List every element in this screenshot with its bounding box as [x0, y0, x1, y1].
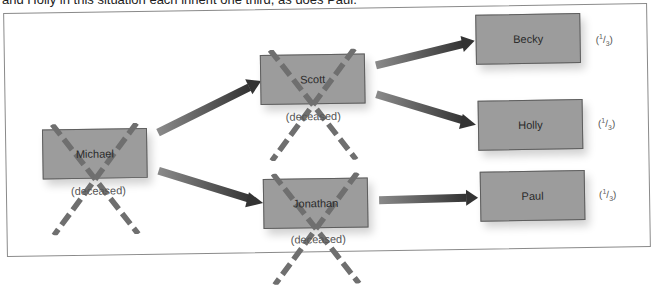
- node-jonathan: Jonathan: [263, 177, 369, 229]
- node-label: Jonathan: [293, 197, 338, 210]
- share-becky: (1/3): [596, 33, 614, 48]
- cross-icon: [39, 123, 152, 236]
- node-label: Scott: [300, 73, 325, 85]
- node-becky: Becky: [475, 13, 581, 65]
- arrow-jonathan-to-paul: [379, 190, 478, 208]
- share-holly: (1/3): [598, 117, 616, 132]
- node-label: Becky: [513, 33, 543, 45]
- cross-icon: [257, 48, 370, 161]
- node-scott: Scott: [260, 53, 366, 105]
- diagram-stage: Michael (deceased) Scott (deceased) Jona…: [0, 0, 655, 266]
- status-michael: (deceased): [71, 184, 126, 197]
- node-label: Michael: [76, 147, 114, 160]
- status-jonathan: (deceased): [291, 233, 346, 246]
- cross-icon: [260, 172, 373, 285]
- status-scott: (deceased): [286, 110, 341, 123]
- share-paul: (1/3): [599, 188, 617, 203]
- node-holly: Holly: [478, 99, 584, 151]
- arrow-michael-to-jonathan: [159, 169, 264, 209]
- node-paul: Paul: [480, 170, 586, 222]
- node-label: Holly: [518, 119, 543, 131]
- node-michael: Michael: [42, 128, 148, 180]
- arrow-michael-to-scott: [157, 79, 262, 133]
- arrow-scott-to-becky: [376, 36, 475, 66]
- arrow-scott-to-holly: [376, 93, 476, 131]
- node-label: Paul: [521, 190, 543, 202]
